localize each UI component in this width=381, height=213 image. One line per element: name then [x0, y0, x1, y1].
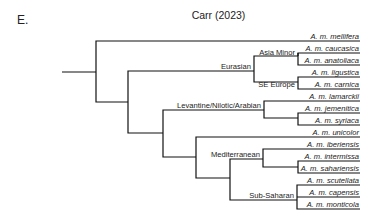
taxon-label: A. m. anatoliaca [304, 56, 359, 65]
clade-label-asia-minor: Asia Minor [259, 48, 295, 57]
clade-label-sub-saharan: Sub-Saharan [249, 191, 294, 200]
taxon-label: A. m. iberiensis [306, 140, 359, 149]
clade-label-se-europe: SE Europe [258, 80, 295, 89]
taxon-label: A. m. intermissa [304, 152, 359, 161]
taxon-label: A. m. unicolor [312, 128, 360, 137]
taxon-label: A. m. scutellata [306, 176, 359, 185]
taxon-label: A. m. carnica [314, 80, 359, 89]
taxon-label: A. m. sahariensis [300, 164, 359, 173]
clade-label-eurasian: Eurasian [221, 62, 251, 71]
clade-label-levantine-nilotic-arabian: Levantine/Nilotic/Arabian [177, 101, 261, 110]
taxon-label: A. m. monticola [306, 200, 359, 209]
clade-label-mediterranean: Mediterranean [211, 150, 260, 159]
node-eurasian [254, 56, 298, 82]
taxon-label: A. m. jemenitica [304, 104, 359, 113]
taxon-label: A. m. capensis [308, 188, 359, 197]
phylogenetic-tree: A. m. mellifera A. m. caucasica A. m. an… [0, 0, 381, 213]
taxon-label: A. m. ligustica [311, 68, 359, 77]
taxon-label: A. m. syriaca [314, 116, 359, 125]
taxon-labels: A. m. mellifera A. m. caucasica A. m. an… [300, 32, 360, 209]
taxon-label: A. m. mellifera [309, 32, 359, 41]
taxon-label: A. m. lamarckii [308, 92, 359, 101]
taxon-label: A. m. caucasica [304, 44, 359, 53]
